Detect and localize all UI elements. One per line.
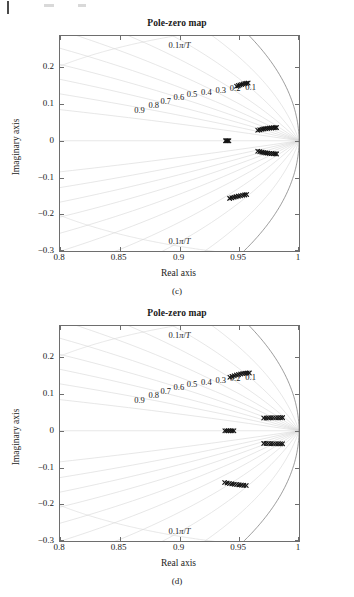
y-axis-title-c: Imaginary axis bbox=[11, 92, 21, 202]
damping-ratio-annotation: 0.3 bbox=[215, 375, 226, 385]
y-axis-tick-label: −0.3 bbox=[38, 245, 54, 255]
figure-page: Pole-zero map 0.1π/T0.1π/T0.90.80.70.60.… bbox=[0, 0, 354, 597]
x-axis-tick-labels-c: 0.80.850.90.951 bbox=[59, 252, 298, 266]
y-axis-tick bbox=[295, 214, 299, 215]
damping-ratio-annotation: 0.5 bbox=[187, 379, 198, 389]
y-axis-tick-label: 0.1 bbox=[43, 98, 54, 108]
y-axis-tick bbox=[60, 104, 64, 105]
x-axis-title-d: Real axis bbox=[59, 558, 298, 568]
y-axis-tick bbox=[295, 178, 299, 179]
unit-circle bbox=[233, 36, 299, 251]
frequency-annotation: 0.1π/T bbox=[169, 236, 191, 246]
y-axis-tick-label: −0.3 bbox=[38, 535, 54, 545]
damping-ratio-line bbox=[60, 431, 299, 464]
frequency-annotation: 0.1π/T bbox=[169, 330, 191, 340]
y-axis-tick bbox=[60, 357, 64, 358]
damping-ratio-line bbox=[60, 431, 299, 530]
plot-canvas bbox=[60, 36, 299, 251]
y-axis-tick bbox=[60, 431, 64, 432]
y-axis-tick-label: −0.1 bbox=[38, 462, 54, 472]
y-axis-title-d: Imaginary axis bbox=[11, 382, 21, 492]
damping-ratio-annotation: 0.4 bbox=[201, 377, 212, 387]
y-axis-tick bbox=[295, 540, 299, 541]
frequency-annotation: 0.1π/T bbox=[169, 40, 191, 50]
x-axis-tick-label: 0.9 bbox=[173, 542, 184, 552]
damping-ratio-line bbox=[60, 397, 299, 430]
natural-frequency-arc bbox=[60, 205, 241, 251]
x-axis-tick bbox=[120, 247, 121, 251]
y-axis-tick bbox=[295, 468, 299, 469]
damping-ratio-line bbox=[60, 141, 299, 191]
plot-area-d: 0.1π/T0.1π/T0.90.80.70.60.50.40.30.20.1 bbox=[59, 325, 300, 542]
x-axis-tick bbox=[120, 537, 121, 541]
damping-ratio-annotation: 0.1 bbox=[245, 372, 256, 382]
y-axis-tick bbox=[295, 67, 299, 68]
x-axis-tick-label: 0.8 bbox=[53, 542, 64, 552]
damping-ratio-line bbox=[60, 431, 299, 481]
y-axis-tick bbox=[295, 394, 299, 395]
y-axis-tick bbox=[295, 104, 299, 105]
damping-ratio-annotation: 0.8 bbox=[148, 100, 159, 110]
y-axis-tick bbox=[60, 141, 64, 142]
x-axis-tick-labels-d: 0.80.850.90.951 bbox=[59, 542, 298, 556]
y-axis-tick bbox=[60, 468, 64, 469]
damping-ratio-annotation: 0.6 bbox=[174, 382, 185, 392]
x-axis-tick-label: 1 bbox=[296, 542, 301, 552]
damping-ratio-annotation: 0.8 bbox=[148, 390, 159, 400]
subfigure-caption-d: (d) bbox=[0, 576, 354, 586]
y-axis-tick bbox=[295, 357, 299, 358]
y-axis-tick-label: 0 bbox=[50, 425, 55, 435]
y-axis-tick bbox=[295, 250, 299, 251]
damping-ratio-annotation: 0.5 bbox=[187, 89, 198, 99]
y-axis-tick bbox=[295, 141, 299, 142]
y-axis-tick bbox=[295, 504, 299, 505]
damping-ratio-annotation: 0.7 bbox=[160, 96, 171, 106]
figure-c: Pole-zero map 0.1π/T0.1π/T0.90.80.70.60.… bbox=[0, 14, 354, 304]
y-axis-tick-label: −0.1 bbox=[38, 172, 54, 182]
figure-d: Pole-zero map 0.1π/T0.1π/T0.90.80.70.60.… bbox=[0, 304, 354, 594]
damping-ratio-annotation: 0.1 bbox=[245, 82, 256, 92]
x-axis-tick bbox=[239, 247, 240, 251]
y-axis-tick bbox=[60, 504, 64, 505]
zplane-grid bbox=[60, 36, 299, 251]
x-axis-tick bbox=[239, 36, 240, 40]
series-pole-locus-lower-branch bbox=[262, 442, 285, 446]
damping-ratio-annotation: 0.4 bbox=[201, 87, 212, 97]
damping-ratio-annotation: 0.7 bbox=[160, 386, 171, 396]
y-axis-tick-label: −0.2 bbox=[38, 498, 54, 508]
y-axis-tick bbox=[60, 394, 64, 395]
damping-ratio-line bbox=[60, 365, 299, 430]
y-axis-tick-label: 0.2 bbox=[43, 61, 54, 71]
series-pole-locus-upper-branch bbox=[262, 416, 285, 420]
y-axis-tick bbox=[60, 214, 64, 215]
plot-canvas bbox=[60, 326, 299, 541]
page-crop-smudge bbox=[22, 2, 142, 10]
damping-ratio-line bbox=[60, 431, 299, 496]
x-axis-tick bbox=[239, 537, 240, 541]
x-axis-tick-label: 1 bbox=[296, 252, 301, 262]
y-axis-tick-label: 0 bbox=[50, 135, 55, 145]
x-axis-tick bbox=[60, 36, 61, 40]
chart-title-d: Pole-zero map bbox=[0, 308, 354, 318]
natural-frequency-arc bbox=[60, 495, 241, 541]
damping-ratio-line bbox=[60, 141, 299, 240]
x-axis-tick bbox=[298, 36, 299, 40]
series-pole-locus-lower-high-frequency bbox=[228, 193, 249, 201]
unit-circle bbox=[233, 326, 299, 541]
x-axis-tick bbox=[60, 326, 61, 330]
page-crop-rule bbox=[7, 1, 9, 14]
damping-ratio-annotation: 0.3 bbox=[215, 85, 226, 95]
damping-ratio-annotation: 0.9 bbox=[134, 395, 145, 405]
x-axis-tick-label: 0.8 bbox=[53, 252, 64, 262]
chart-title-c: Pole-zero map bbox=[0, 18, 354, 28]
y-axis-tick bbox=[295, 431, 299, 432]
x-axis-tick-label: 0.95 bbox=[230, 542, 246, 552]
x-axis-tick-label: 0.9 bbox=[173, 252, 184, 262]
damping-ratio-annotation: 0.2 bbox=[230, 373, 241, 383]
x-axis-tick bbox=[120, 326, 121, 330]
zplane-grid bbox=[60, 326, 299, 541]
y-axis-tick bbox=[60, 540, 64, 541]
x-axis-tick bbox=[298, 326, 299, 330]
x-axis-tick bbox=[180, 247, 181, 251]
damping-ratio-annotation: 0.2 bbox=[230, 83, 241, 93]
